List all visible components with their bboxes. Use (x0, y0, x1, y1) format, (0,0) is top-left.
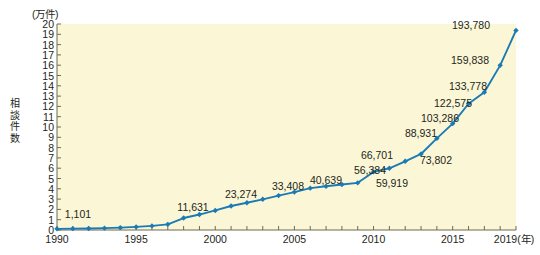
data-point-label: 159,838 (451, 55, 489, 66)
data-point-label: 56,384 (354, 165, 386, 176)
x-tick-label: 2010 (362, 234, 385, 245)
data-point-label: 73,802 (420, 155, 452, 166)
x-tick-label: 2000 (204, 234, 227, 245)
plot-background (57, 24, 516, 230)
x-tick-label: 1995 (124, 234, 147, 245)
x-tick-label: 2005 (283, 234, 306, 245)
data-point-label: 23,274 (225, 189, 257, 200)
data-point-label: 33,408 (272, 181, 304, 192)
data-point-label: 88,931 (405, 128, 437, 139)
x-tick-label: 1990 (45, 234, 68, 245)
x-tick-label: 2019(年) (494, 234, 534, 245)
data-point-label: 133,778 (449, 81, 487, 92)
data-point-label: 122,575 (434, 98, 472, 109)
data-point-label: 59,919 (376, 178, 408, 189)
data-point-label: 11,631 (177, 202, 208, 213)
data-point-label: 40,639 (310, 175, 342, 186)
data-point-label: 66,701 (361, 150, 393, 161)
y-axis-ticks (57, 24, 61, 230)
x-tick-label: 2015 (441, 234, 464, 245)
data-point-label: 193,780 (452, 20, 490, 31)
data-point-label: 1,101 (65, 209, 91, 220)
line-chart: (万件) 相談件数 012345678910111213141516171819… (0, 0, 540, 255)
data-point-label: 103,286 (421, 113, 459, 124)
